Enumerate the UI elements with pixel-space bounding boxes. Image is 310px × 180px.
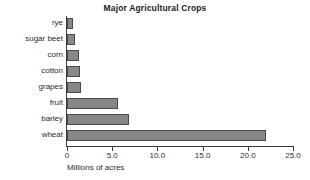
x-axis-line [66, 146, 294, 147]
bar-row: grapes [0, 79, 310, 95]
plot-area: rye sugar beet corn cotton grapes fruit … [0, 0, 310, 180]
bar-chart: Major Agricultural Crops rye sugar beet … [0, 0, 310, 180]
bar-row: corn [0, 47, 310, 63]
bar-sugar-beet [67, 34, 75, 45]
bar-row: barley [0, 111, 310, 127]
x-axis-tick-label: 5.0 [107, 151, 118, 160]
bar-row: rye [0, 15, 310, 31]
x-axis-tick-label: 25.0 [285, 151, 301, 160]
category-label-corn: corn [47, 47, 63, 63]
x-axis-title: Millions of acres [67, 163, 124, 172]
bar-corn [67, 50, 79, 61]
category-label-barley: barley [41, 111, 63, 127]
y-axis-line [66, 16, 67, 146]
bar-wheat [67, 130, 266, 141]
category-label-grapes: grapes [39, 79, 63, 95]
category-label-rye: rye [52, 15, 63, 31]
bar-grapes [67, 82, 81, 93]
category-label-wheat: wheat [42, 127, 63, 143]
bar-cotton [67, 66, 80, 77]
x-axis-tick-label: 0 [65, 151, 69, 160]
bar-row: wheat [0, 127, 310, 143]
bar-fruit [67, 98, 118, 109]
bar-barley [67, 114, 129, 125]
x-axis-tick-label: 15.0 [195, 151, 211, 160]
category-label-sugar-beet: sugar beet [25, 31, 63, 47]
category-label-cotton: cotton [41, 63, 63, 79]
bar-row: fruit [0, 95, 310, 111]
bar-rye [67, 18, 73, 29]
x-axis-tick-label: 10.0 [150, 151, 166, 160]
bar-row: sugar beet [0, 31, 310, 47]
bar-row: cotton [0, 63, 310, 79]
category-label-fruit: fruit [50, 95, 63, 111]
x-axis-tick-label: 20.0 [240, 151, 256, 160]
